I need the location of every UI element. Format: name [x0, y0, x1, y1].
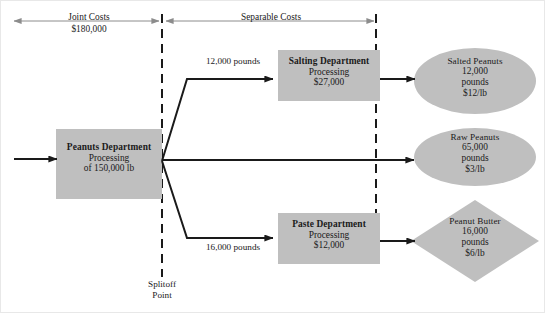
peanut-butter-diamond	[411, 200, 539, 282]
salted-peanuts-ellipse	[414, 48, 536, 114]
joint-costs-value-text: $180,000	[49, 24, 129, 36]
raw-peanuts-ellipse	[414, 128, 536, 186]
separable-costs-label-text: Separable Costs	[225, 12, 317, 24]
paste-flow-label: 16,000 pounds	[187, 242, 279, 252]
splitoff-cost-diagram: Joint Costs $180,000 Separable Costs Pea…	[0, 0, 545, 313]
joint-costs-bracket-label: Joint Costs $180,000	[49, 12, 129, 36]
splitoff-line2: Point	[132, 290, 192, 301]
joint-costs-label-text: Joint Costs	[49, 12, 129, 24]
peanuts-department-box	[56, 129, 162, 199]
splitoff-point-label: Splitoff Point	[132, 279, 192, 301]
salting-flow-label: 12,000 pounds	[187, 56, 279, 66]
splitoff-line1: Splitoff	[132, 279, 192, 290]
salting-flow-arrow	[162, 79, 273, 161]
separable-costs-bracket-label: Separable Costs	[225, 12, 317, 24]
diagram-canvas	[1, 1, 545, 313]
paste-department-box	[278, 213, 380, 264]
paste-flow-arrow	[162, 161, 273, 238]
salting-department-box	[278, 50, 380, 101]
